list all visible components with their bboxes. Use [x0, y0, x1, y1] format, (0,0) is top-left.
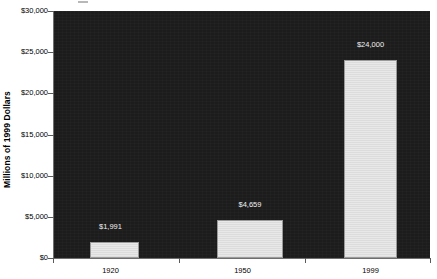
y-axis-title: Millions of 1999 Dollars: [0, 0, 14, 279]
y-axis-tick-label: $5,000: [0, 213, 48, 221]
x-axis-category-label-1950: 1950: [210, 266, 275, 275]
bar-1950[interactable]: [217, 220, 283, 258]
bar-1999[interactable]: [344, 60, 397, 258]
x-axis-category-label-1920: 1920: [78, 266, 143, 275]
y-axis-tick-label: $0: [0, 254, 48, 262]
bar-value-label-1999: $24,000: [344, 40, 397, 49]
x-axis-line: [53, 258, 431, 259]
x-axis-tick: [305, 258, 306, 263]
x-axis-category-label-1999: 1999: [338, 266, 403, 275]
bar-value-label-1920: $1,991: [78, 222, 143, 231]
y-axis-tick-label: $10,000: [0, 172, 48, 180]
scan-artifact-mark: [78, 1, 88, 3]
bar-1920[interactable]: [90, 242, 139, 258]
bar-chart: Millions of 1999 Dollars $30,000 $25,000…: [0, 0, 437, 279]
x-axis-tick: [179, 258, 180, 263]
x-axis-tick: [430, 258, 431, 263]
bar-value-label-1950: $4,659: [217, 200, 283, 209]
y-axis-tick-label: $30,000: [0, 7, 48, 15]
y-axis-tick-label: $15,000: [0, 131, 48, 139]
y-axis-tick-label: $20,000: [0, 89, 48, 97]
y-axis-tick-label: $25,000: [0, 48, 48, 56]
x-axis-tick: [53, 258, 54, 263]
